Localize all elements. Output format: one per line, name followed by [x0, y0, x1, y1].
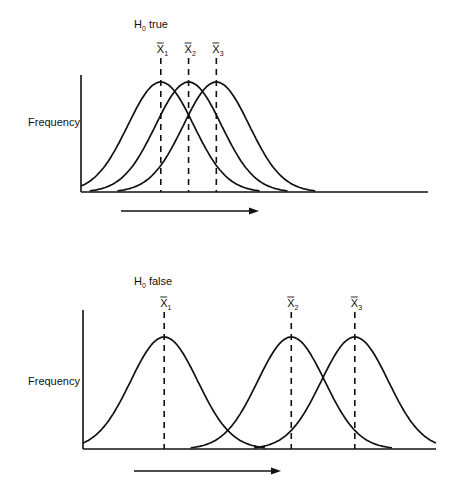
chart-title: H0 false	[134, 275, 172, 289]
chart-panel-1: H0 trueFrequencyX1X2X3	[28, 18, 428, 215]
chart-panel-2: H0 falseFrequencyX1X2X3	[28, 275, 436, 475]
mean-label-2: X2	[185, 43, 196, 57]
mean-label-2: X2	[287, 297, 298, 311]
mean-label-subscript: 2	[192, 50, 196, 57]
mean-label-1: X1	[160, 297, 171, 311]
mean-label-1: X1	[157, 43, 168, 57]
title-base: H	[134, 18, 142, 30]
y-axis-label: Frequency	[28, 116, 80, 128]
mean-label-subscript: 1	[168, 304, 172, 311]
mean-label-subscript: 2	[295, 304, 299, 311]
distribution-curve-3	[254, 337, 436, 448]
mean-label-subscript: 1	[164, 50, 168, 57]
chart-title: H0 true	[134, 18, 168, 32]
direction-arrow-head-icon	[271, 468, 281, 475]
title-rest: false	[146, 275, 172, 287]
title-base: H	[134, 275, 142, 287]
y-axis-label: Frequency	[28, 375, 80, 387]
mean-label-3: X3	[212, 43, 223, 57]
distribution-curve-1	[83, 337, 265, 448]
direction-arrow-head-icon	[249, 208, 259, 215]
title-rest: true	[146, 18, 168, 30]
figure: H0 trueFrequencyX1X2X3H0 falseFrequencyX…	[0, 0, 454, 488]
mean-label-subscript: 3	[220, 50, 224, 57]
mean-label-3: X3	[351, 297, 362, 311]
mean-label-subscript: 3	[358, 304, 362, 311]
